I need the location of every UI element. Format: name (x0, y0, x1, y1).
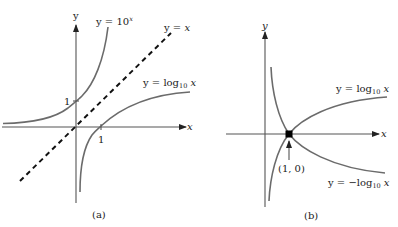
log-curve-label: y = log10 x (335, 83, 389, 96)
point-label: (1, 0) (278, 163, 305, 174)
y-axis-label: y (261, 20, 268, 31)
exp-curve-label: y = 10x (95, 15, 133, 27)
log-curve (80, 92, 190, 192)
x-axis-label: x (187, 121, 193, 132)
tick-x-1-label: 1 (98, 134, 104, 145)
x-axis-label: x (381, 128, 387, 139)
tick-y-1-label: 1 (64, 96, 70, 107)
identity-line-label: y = x (163, 22, 190, 33)
identity-line (20, 33, 171, 181)
intersection-point (286, 131, 293, 138)
panel-a-caption: (a) (92, 209, 106, 220)
y-axis-label: y (72, 10, 79, 21)
panel-b-caption: (b) (304, 210, 318, 221)
logarithm-figure: y x 1 1 y = 10x y = x y = log10 x (a) y … (0, 0, 398, 227)
panel-b: y x (1, 0) y = log10 x y = −log10 x (b) (226, 20, 390, 221)
log-curve-label: y = log10 x (142, 77, 196, 90)
panel-a: y x 1 1 y = 10x y = x y = log10 x (a) (2, 10, 196, 220)
neg-log-curve-label: y = −log10 x (327, 177, 390, 190)
